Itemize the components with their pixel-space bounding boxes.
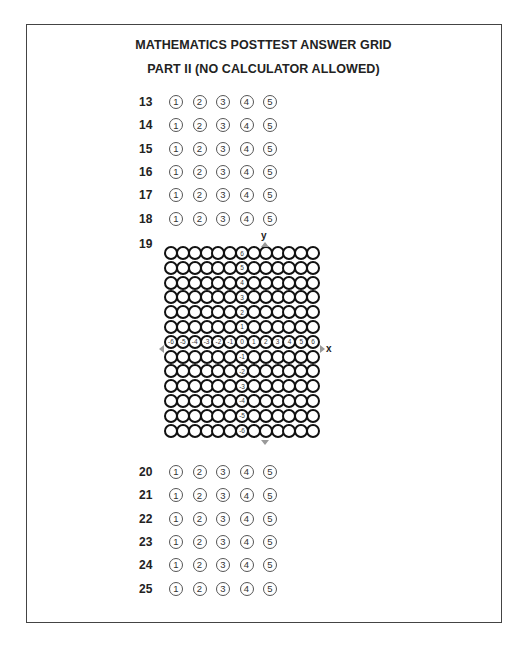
question-number: 17 [139, 188, 169, 202]
question-number: 23 [139, 535, 169, 549]
question-row-24: 2412345 [139, 556, 287, 574]
grid-point-6--4[interactable] [306, 394, 320, 408]
answer-bubble-3[interactable]: 3 [216, 165, 230, 179]
answer-bubble-3[interactable]: 3 [216, 535, 230, 549]
y-axis-down-arrow-icon [261, 440, 269, 445]
grid-point-6--6[interactable] [306, 424, 320, 438]
answer-bubble-4[interactable]: 4 [240, 142, 254, 156]
grid-point-6-2[interactable] [306, 305, 320, 319]
answer-bubble-1[interactable]: 1 [169, 535, 183, 549]
answer-bubble-4[interactable]: 4 [240, 165, 254, 179]
answer-bubble-1[interactable]: 1 [169, 95, 183, 109]
answer-bubble-1[interactable]: 1 [169, 165, 183, 179]
grid-point-6-5[interactable] [306, 261, 320, 275]
grid-point-6-1[interactable] [306, 320, 320, 334]
question-row-16: 1612345 [139, 163, 287, 181]
answer-bubble-4[interactable]: 4 [240, 188, 254, 202]
sheet-title: MATHEMATICS POSTTEST ANSWER GRID [0, 38, 527, 52]
question-number: 15 [139, 142, 169, 156]
answer-bubble-2[interactable]: 2 [193, 188, 207, 202]
grid-point-6--2[interactable] [306, 364, 320, 378]
answer-bubble-1[interactable]: 1 [169, 188, 183, 202]
answer-bubble-4[interactable]: 4 [240, 582, 254, 596]
question-number: 22 [139, 512, 169, 526]
answer-bubble-1[interactable]: 1 [169, 558, 183, 572]
answer-bubble-1[interactable]: 1 [169, 142, 183, 156]
question-row-18: 1812345 [139, 210, 287, 228]
answer-bubble-5[interactable]: 5 [263, 465, 277, 479]
question-row-20: 2012345 [139, 463, 287, 481]
answer-bubble-5[interactable]: 5 [263, 142, 277, 156]
question-number: 14 [139, 118, 169, 132]
answer-bubble-5[interactable]: 5 [263, 488, 277, 502]
answer-bubble-1[interactable]: 1 [169, 212, 183, 226]
answer-bubble-2[interactable]: 2 [193, 558, 207, 572]
question-row-13: 1312345 [139, 93, 287, 111]
question-number: 20 [139, 465, 169, 479]
answer-bubble-5[interactable]: 5 [263, 118, 277, 132]
answer-bubble-3[interactable]: 3 [216, 512, 230, 526]
x-axis-left-arrow-icon [159, 345, 164, 353]
answer-bubble-1[interactable]: 1 [169, 488, 183, 502]
y-axis-label: y [261, 230, 267, 241]
answer-bubble-5[interactable]: 5 [263, 558, 277, 572]
answer-bubble-2[interactable]: 2 [193, 165, 207, 179]
question-row-25: 2512345 [139, 580, 287, 598]
answer-bubble-1[interactable]: 1 [169, 512, 183, 526]
grid-point-6-0[interactable]: 6 [306, 335, 320, 349]
sheet-subtitle: PART II (NO CALCULATOR ALLOWED) [0, 62, 527, 76]
question-number: 24 [139, 558, 169, 572]
answer-bubble-4[interactable]: 4 [240, 488, 254, 502]
question-row-15: 1512345 [139, 140, 287, 158]
answer-bubble-3[interactable]: 3 [216, 488, 230, 502]
answer-bubble-2[interactable]: 2 [193, 95, 207, 109]
answer-bubble-5[interactable]: 5 [263, 535, 277, 549]
answer-bubble-5[interactable]: 5 [263, 512, 277, 526]
question-number: 13 [139, 95, 169, 109]
answer-bubble-5[interactable]: 5 [263, 95, 277, 109]
answer-bubble-3[interactable]: 3 [216, 465, 230, 479]
answer-bubble-2[interactable]: 2 [193, 535, 207, 549]
answer-bubble-4[interactable]: 4 [240, 535, 254, 549]
question-row-23: 2312345 [139, 533, 287, 551]
answer-bubble-3[interactable]: 3 [216, 188, 230, 202]
x-axis-label: x [326, 343, 332, 354]
answer-bubble-3[interactable]: 3 [216, 118, 230, 132]
answer-bubble-3[interactable]: 3 [216, 582, 230, 596]
answer-bubble-2[interactable]: 2 [193, 512, 207, 526]
answer-bubble-3[interactable]: 3 [216, 212, 230, 226]
question-row-22: 2212345 [139, 510, 287, 528]
grid-point-6-6[interactable] [306, 246, 320, 260]
grid-point-6--5[interactable] [306, 409, 320, 423]
answer-bubble-2[interactable]: 2 [193, 142, 207, 156]
answer-bubble-1[interactable]: 1 [169, 118, 183, 132]
question-row-21: 2112345 [139, 486, 287, 504]
answer-bubble-4[interactable]: 4 [240, 512, 254, 526]
answer-bubble-4[interactable]: 4 [240, 95, 254, 109]
y-axis-up-arrow-icon [261, 242, 269, 247]
question-row-14: 1412345 [139, 116, 287, 134]
x-axis-right-arrow-icon [320, 345, 325, 353]
answer-bubble-1[interactable]: 1 [169, 465, 183, 479]
grid-point-6--3[interactable] [306, 379, 320, 393]
answer-bubble-3[interactable]: 3 [216, 558, 230, 572]
answer-bubble-2[interactable]: 2 [193, 465, 207, 479]
grid-point-6-4[interactable] [306, 276, 320, 290]
answer-bubble-5[interactable]: 5 [263, 212, 277, 226]
answer-bubble-4[interactable]: 4 [240, 118, 254, 132]
answer-bubble-4[interactable]: 4 [240, 558, 254, 572]
answer-bubble-5[interactable]: 5 [263, 582, 277, 596]
answer-bubble-3[interactable]: 3 [216, 142, 230, 156]
answer-bubble-5[interactable]: 5 [263, 188, 277, 202]
answer-bubble-2[interactable]: 2 [193, 118, 207, 132]
answer-bubble-4[interactable]: 4 [240, 212, 254, 226]
answer-bubble-2[interactable]: 2 [193, 212, 207, 226]
answer-bubble-2[interactable]: 2 [193, 582, 207, 596]
answer-bubble-1[interactable]: 1 [169, 582, 183, 596]
answer-bubble-5[interactable]: 5 [263, 165, 277, 179]
grid-point-6--1[interactable] [306, 350, 320, 364]
answer-bubble-4[interactable]: 4 [240, 465, 254, 479]
grid-point-6-3[interactable] [306, 290, 320, 304]
answer-bubble-3[interactable]: 3 [216, 95, 230, 109]
answer-bubble-2[interactable]: 2 [193, 488, 207, 502]
